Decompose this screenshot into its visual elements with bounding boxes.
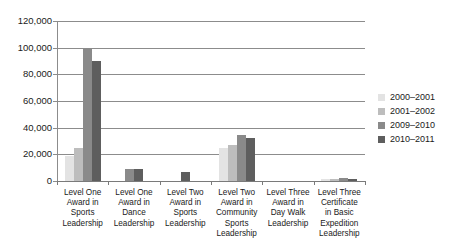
x-axis-tick-mark <box>365 181 366 185</box>
legend-swatch-icon <box>378 136 385 143</box>
x-axis-tick-label-line: Expedition <box>314 219 365 229</box>
x-axis-tick-label: Level OneAward inSportsLeadership <box>57 188 108 229</box>
x-axis-tick-label-line: Leadership <box>314 229 365 239</box>
x-axis-tick-label-line: Award in <box>262 198 313 208</box>
legend-item[interactable]: 2001–2002 <box>378 104 435 118</box>
x-axis-tick-label-line: Community <box>211 208 262 218</box>
bar <box>237 135 246 181</box>
x-axis-tick-label: Level ThreeCertificatein BasicExpedition… <box>314 188 365 239</box>
x-axis-tick-label-line: Certificate <box>314 198 365 208</box>
y-axis-tick-label: 20,000 <box>0 149 52 159</box>
legend-item-label: 2009–2010 <box>390 120 435 130</box>
y-axis-tick-label: 120,000 <box>0 16 52 26</box>
y-axis-tick-label: 0 <box>0 176 52 186</box>
bar-group <box>160 21 211 181</box>
bar-group <box>211 21 262 181</box>
x-axis-tick-label-line: Level One <box>108 188 159 198</box>
x-axis-tick-label: Level OneAward inDanceLeadership <box>108 188 159 229</box>
bar-group <box>57 21 108 181</box>
x-axis-tick-label-line: Dance <box>108 208 159 218</box>
legend-item[interactable]: 2010–2011 <box>378 132 435 146</box>
bar-group <box>314 21 365 181</box>
legend-item-label: 2010–2011 <box>390 134 434 144</box>
legend-swatch-icon <box>378 94 385 101</box>
x-axis-tick-label-line: Sports <box>160 208 211 218</box>
bar-group <box>108 21 159 181</box>
y-axis-tick-label: 60,000 <box>0 96 52 106</box>
bar <box>92 61 101 181</box>
x-axis-tick-mark <box>314 181 315 185</box>
bar <box>134 169 143 181</box>
x-axis-tick-label-line: Level One <box>57 188 108 198</box>
x-axis-tick-label-line: Level Two <box>160 188 211 198</box>
bar <box>125 169 134 181</box>
y-axis-tick-label: 100,000 <box>0 43 52 53</box>
x-axis-tick-mark <box>57 181 58 185</box>
y-axis-tick-label: 80,000 <box>0 69 52 79</box>
bar <box>228 145 237 181</box>
bar <box>181 172 190 181</box>
legend-item-label: 2001–2002 <box>390 106 435 116</box>
plot-area <box>57 21 365 181</box>
bar <box>83 48 92 181</box>
x-axis-tick-mark <box>211 181 212 185</box>
x-axis-tick-label: Level ThreeAward inDay WalkLeadership <box>262 188 313 229</box>
x-axis-tick-mark <box>160 181 161 185</box>
bar <box>74 148 83 181</box>
x-axis-tick-label-line: Award in <box>160 198 211 208</box>
x-axis-tick-label-line: Leadership <box>262 219 313 229</box>
x-axis-tick-label-line: Award in <box>108 198 159 208</box>
x-axis-tick-label-line: Level Three <box>262 188 313 198</box>
legend-item-label: 2000–2001 <box>390 92 435 102</box>
x-axis-tick-label-line: Level Two <box>211 188 262 198</box>
legend-swatch-icon <box>378 122 385 129</box>
x-axis-tick-label-line: Level Three <box>314 188 365 198</box>
bar <box>219 148 228 181</box>
bar <box>65 156 74 181</box>
x-axis-tick-label-line: Award in <box>211 198 262 208</box>
y-axis-tick-labels: 120,000100,00080,00060,00040,00020,0000 <box>0 0 52 243</box>
x-axis-tick-label-line: Day Walk <box>262 208 313 218</box>
x-axis-tick-label-line: Sports <box>211 219 262 229</box>
x-axis-tick-label-line: Leadership <box>160 219 211 229</box>
x-axis-tick-label-line: Sports <box>57 208 108 218</box>
x-axis-tick-label: Level TwoAward inSportsLeadership <box>160 188 211 229</box>
x-axis-tick-label-line: Award in <box>57 198 108 208</box>
bar <box>246 138 255 181</box>
legend-item[interactable]: 2000–2001 <box>378 90 435 104</box>
x-axis-tick-mark <box>108 181 109 185</box>
y-axis-tick-label: 40,000 <box>0 123 52 133</box>
x-axis-tick-label-line: in Basic <box>314 208 365 218</box>
legend-item[interactable]: 2009–2010 <box>378 118 435 132</box>
bar-chart: 120,000100,00080,00060,00040,00020,0000 … <box>0 0 451 243</box>
x-axis-tick-label-line: Leadership <box>108 219 159 229</box>
x-axis-tick-label-line: Leadership <box>211 229 262 239</box>
bar-group <box>262 21 313 181</box>
x-axis-tick-label: Level TwoAward inCommunitySportsLeadersh… <box>211 188 262 239</box>
chart-legend: 2000–20012001–20022009–20102010–2011 <box>378 90 435 146</box>
bar-series-layer <box>57 21 365 181</box>
legend-swatch-icon <box>378 108 385 115</box>
x-axis-tick-label-line: Leadership <box>57 219 108 229</box>
x-axis-tick-mark <box>262 181 263 185</box>
